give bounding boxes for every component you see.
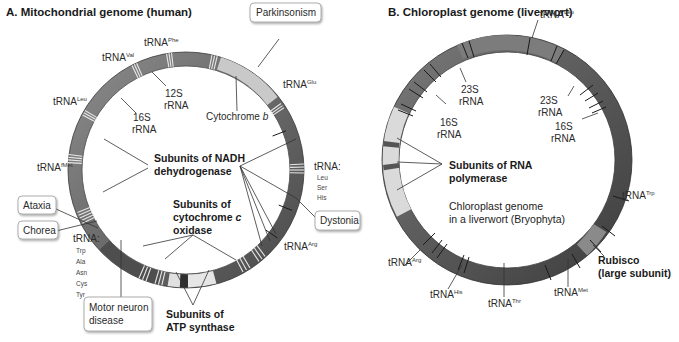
svg-text:Asn: Asn xyxy=(76,269,88,276)
label-cp-trna-his: tRNAHis xyxy=(430,289,463,300)
label-atp-1: Subunits of xyxy=(166,308,224,320)
disease-box-dystonia: Dystonia xyxy=(315,211,360,230)
label-rna-pol-1: Subunits of RNA xyxy=(449,159,533,171)
label-cox-1: Subunits of xyxy=(173,198,231,210)
label-cp-23s-left: 23S xyxy=(461,84,479,95)
label-cp-trna-trp: tRNATrp xyxy=(622,190,655,201)
label-cp-23s-left-rrna: rRNA xyxy=(459,96,484,107)
label-cp-16s-right: 16S xyxy=(555,121,573,132)
svg-text:tRNA:: tRNA: xyxy=(73,233,100,244)
svg-text:Ala: Ala xyxy=(76,258,86,265)
svg-text:Tyr: Tyr xyxy=(76,291,86,299)
label-cox-3: oxidase xyxy=(173,224,212,236)
svg-text:Trp: Trp xyxy=(76,247,86,255)
label-cytochrome-b: Cytochrome b xyxy=(206,111,269,122)
svg-text:Parkinsonism: Parkinsonism xyxy=(256,7,316,18)
label-cp-trna-arg: tRNAArg xyxy=(388,257,421,268)
label-16s: 16S xyxy=(133,112,151,123)
label-cp-16s-left: 16S xyxy=(440,117,458,128)
label-trna-leu: tRNALeu xyxy=(53,96,87,107)
disease-box-chorea: Chorea xyxy=(18,221,58,239)
label-16s-rrna: rRNA xyxy=(132,124,157,135)
svg-text:Leu: Leu xyxy=(317,174,328,181)
svg-text:tRNA:: tRNA: xyxy=(314,161,341,172)
label-rna-pol-2: polymerase xyxy=(449,172,508,184)
panel-a-title: A. Mitochondrial genome (human) xyxy=(6,6,192,18)
label-rubisco-2: (large subunit) xyxy=(598,267,671,279)
label-nadh-1: Subunits of NADH xyxy=(154,152,245,164)
label-cp-23s-right-rrna: rRNA xyxy=(538,107,563,118)
svg-text:Cys: Cys xyxy=(76,280,88,288)
mito-gene-labels: 12S rRNA 16S rRNA Cytochrome b Subunits … xyxy=(132,88,269,333)
label-trna-val: tRNAVal xyxy=(102,52,134,63)
label-cox-2: cytochrome c xyxy=(173,211,241,223)
label-rubisco-1: Rubisco xyxy=(598,254,639,266)
label-trna-leu-ser-his: tRNA: Leu Ser His xyxy=(314,161,341,201)
panel-a-mitochondrial: A. Mitochondrial genome (human) xyxy=(6,3,360,333)
svg-text:Ser: Ser xyxy=(317,184,328,191)
svg-text:His: His xyxy=(317,194,327,201)
svg-text:Dystonia: Dystonia xyxy=(320,215,359,226)
label-cp-trna-thr: tRNAThr xyxy=(488,298,521,309)
label-cp-center-2: in a liverwort (Bryophyta) xyxy=(449,213,565,225)
label-cp-trna-leu: tRNALeu xyxy=(540,9,574,20)
svg-text:disease: disease xyxy=(89,315,124,326)
disease-box-parkinsonism: Parkinsonism xyxy=(250,3,321,22)
label-trna-fmet: tRNAfMet xyxy=(37,162,73,173)
label-trna-phe: tRNAPhe xyxy=(144,37,179,48)
svg-text:Ataxia: Ataxia xyxy=(23,200,51,211)
label-cp-center-1: Chloroplast genome xyxy=(449,200,543,212)
label-cp-16s-right-rrna: rRNA xyxy=(551,133,576,144)
label-cp-trna-met: tRNAMet xyxy=(554,287,588,298)
svg-text:Motor neuron: Motor neuron xyxy=(89,302,148,313)
disease-box-motor-neuron: Motor neuron disease xyxy=(84,297,152,331)
label-nadh-2: dehydrogenase xyxy=(154,165,232,177)
label-trna-arg: tRNAArg xyxy=(284,241,317,252)
label-cp-23s-right: 23S xyxy=(540,95,558,106)
panel-b-chloroplast: B. Chloroplast genome (liverwort) xyxy=(382,6,671,309)
label-trna-glu: tRNAGlu xyxy=(283,79,316,90)
label-atp-2: ATP synthase xyxy=(166,321,235,333)
svg-text:Chorea: Chorea xyxy=(23,225,56,236)
label-12s-rrna: rRNA xyxy=(164,100,189,111)
disease-box-ataxia: Ataxia xyxy=(18,196,56,214)
label-trna-group: tRNA: Trp Ala Asn Cys Tyr xyxy=(73,233,100,299)
label-cp-16s-left-rrna: rRNA xyxy=(437,129,462,140)
genome-diagram: A. Mitochondrial genome (human) xyxy=(0,0,679,342)
label-12s: 12S xyxy=(165,88,183,99)
